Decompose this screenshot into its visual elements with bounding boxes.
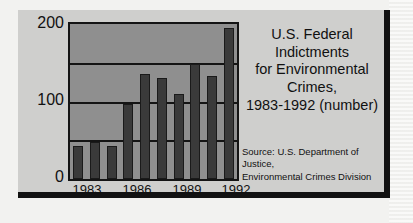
x-tick-label-1983: 1983 — [73, 182, 102, 197]
y-tick-label-0: 0 — [20, 169, 64, 185]
bar-1991 — [207, 76, 217, 179]
y-axis: 200 100 0 — [18, 10, 64, 198]
chart-title-line-3: 1983-1992 (number) — [242, 97, 382, 115]
bar-1983 — [73, 146, 83, 179]
bar-1989 — [174, 94, 184, 179]
x-tick-label-1986: 1986 — [123, 182, 152, 197]
bar-1985 — [107, 146, 117, 179]
bar-1988 — [157, 78, 167, 179]
chart-title-line-2: for Environmental Crimes, — [242, 61, 382, 96]
x-tick-label-1989: 1989 — [173, 182, 202, 197]
chart-title-line-1: U.S. Federal Indictments — [242, 26, 382, 61]
x-axis: 1983 1986 1989 1992 — [68, 182, 239, 202]
source-note-line-2: Environmental Crimes Division — [242, 171, 384, 183]
bar-1987 — [140, 74, 150, 179]
x-tick-label-1992: 1992 — [222, 182, 251, 197]
chart-figure-card: 200 100 0 19 — [18, 10, 390, 198]
page-texture — [389, 0, 413, 223]
plot-area — [68, 22, 239, 181]
y-tick-label-100: 100 — [20, 92, 64, 108]
source-note-line-1: Source: U.S. Department of Justice, — [242, 146, 384, 171]
chart-figure-inner: 200 100 0 19 — [18, 10, 378, 186]
bar-series — [70, 24, 237, 179]
chart-title: U.S. Federal Indictments for Environment… — [242, 26, 382, 114]
y-tick-label-200: 200 — [20, 15, 64, 31]
bar-1992 — [224, 28, 234, 179]
source-note: Source: U.S. Department of Justice, Envi… — [242, 146, 384, 183]
bar-1984 — [90, 142, 100, 179]
bar-1986 — [123, 104, 133, 179]
bar-1990 — [190, 64, 200, 179]
